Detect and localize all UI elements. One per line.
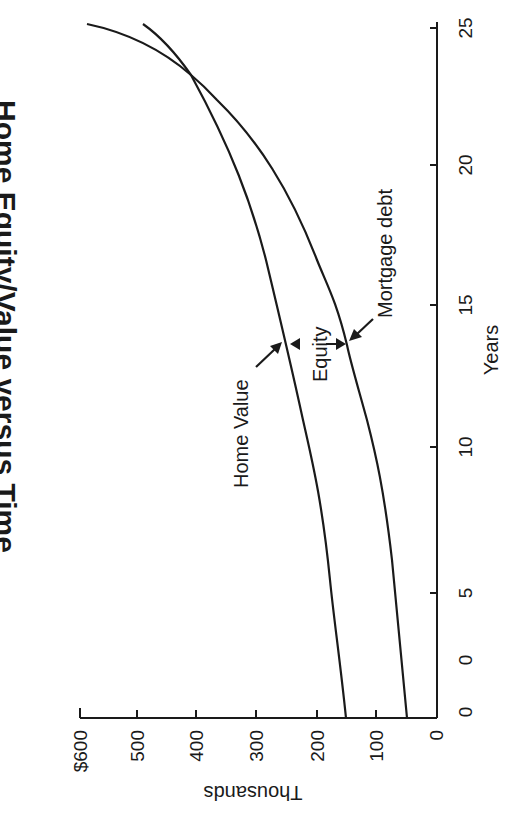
home-value-arrow-icon: [256, 342, 282, 367]
y-tick-label: 300: [246, 730, 267, 762]
y-tick-label: $600: [70, 730, 91, 772]
corner-zero-label: 0: [455, 707, 476, 718]
series-lines: [87, 24, 407, 718]
home-value-label: Home Value: [230, 379, 252, 488]
y-axis-ticks: [80, 708, 376, 718]
x-tick-label: 25: [455, 17, 476, 38]
y-tick-label: 200: [307, 730, 328, 762]
y-axis-title: Thousands: [204, 782, 303, 804]
x-axis-ticks: [430, 28, 437, 593]
y-tick-label: 500: [127, 730, 148, 762]
x-tick-label: 0: [455, 655, 476, 666]
mortgage-debt-label: Mortgage debt: [374, 189, 396, 318]
equity-chart: 0 5 10 15 20 25 0 $600 500 400 300 200 1…: [0, 0, 507, 815]
x-tick-label: 10: [455, 436, 476, 457]
mortgage-debt-line: [87, 24, 407, 718]
y-tick-label: 0: [426, 730, 447, 741]
x-tick-label: 20: [455, 154, 476, 175]
equity-label: Equity: [309, 326, 331, 382]
axes: [80, 22, 437, 718]
x-tick-label: 5: [455, 588, 476, 599]
x-tick-labels: 0 5 10 15 20 25: [455, 17, 476, 665]
y-tick-labels: $600 500 400 300 200 100 0: [70, 730, 447, 772]
y-tick-label: 100: [366, 730, 387, 762]
mortgage-debt-arrow-icon: [349, 319, 373, 341]
x-axis-title: Years: [480, 325, 502, 375]
y-tick-label: 400: [186, 730, 207, 762]
x-tick-label: 15: [455, 294, 476, 315]
annotations: Home Value Equity Mortgage debt: [230, 189, 396, 488]
